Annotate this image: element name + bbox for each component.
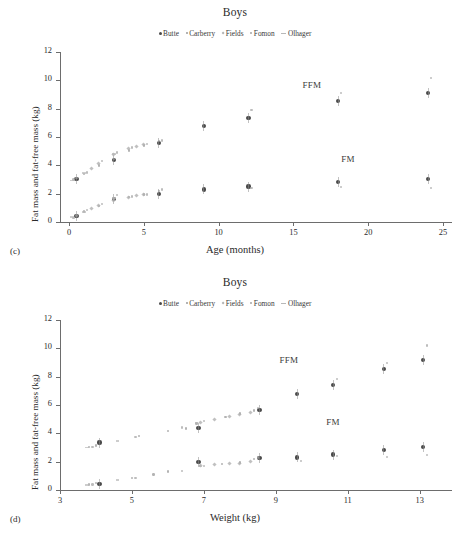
y-axis-line (60, 52, 61, 223)
y-tick (56, 377, 60, 378)
y-tick-label: 2 (36, 456, 52, 465)
data-point (199, 466, 202, 467)
data-point (116, 440, 119, 441)
data-point (116, 479, 119, 480)
legend-label-carberry: Carberry (189, 29, 215, 38)
data-point (89, 206, 93, 210)
panel-c-age: Boys Butte Carberry Fields Fomon Olhager… (0, 0, 470, 262)
data-point (116, 151, 118, 153)
data-point (134, 436, 136, 438)
panel-c-plot-area: 0246810120510152025FFMFM (60, 52, 452, 222)
data-point (257, 407, 259, 409)
data-point (250, 109, 252, 111)
data-point (75, 177, 77, 179)
data-point (181, 426, 183, 428)
error-bar (99, 438, 100, 448)
y-tick-label: 12 (36, 46, 52, 55)
data-point (430, 187, 432, 189)
data-point (340, 186, 342, 188)
diamond-marker-icon (222, 32, 225, 35)
data-point (253, 409, 255, 411)
y-tick-label: 8 (36, 103, 52, 112)
data-point (221, 463, 223, 465)
dot-marker-icon (250, 32, 252, 34)
x-tick (144, 222, 145, 226)
data-point (75, 214, 77, 216)
dot-marker-icon (250, 302, 252, 304)
panel-d-title: Boys (0, 276, 470, 288)
legend-entry-fomon: Fomon (250, 298, 274, 308)
data-point (340, 92, 342, 94)
panel-d-weight: Boys Butte Carberry Fields Fomon Olhager… (0, 270, 470, 532)
data-point (101, 160, 103, 162)
data-point (112, 153, 115, 154)
x-tick-label: 5 (122, 496, 142, 505)
data-point (91, 446, 93, 448)
data-point (82, 172, 85, 173)
data-point (86, 171, 88, 173)
legend-label-carberry: Carberry (189, 299, 215, 308)
legend-entry-fields: Fields (222, 298, 244, 308)
error-bar (248, 182, 249, 192)
data-point (131, 195, 133, 197)
x-tick-label: 11 (338, 496, 358, 505)
error-bar (99, 479, 100, 489)
x-tick-label: 10 (209, 228, 229, 237)
data-point (161, 188, 163, 190)
y-tick (56, 109, 60, 110)
y-tick (56, 137, 60, 138)
error-bar (113, 155, 114, 165)
dash-marker-icon (281, 303, 286, 304)
filled-circle-marker-icon (159, 32, 162, 35)
error-bar (428, 174, 429, 184)
data-point (300, 460, 302, 462)
data-point (195, 422, 198, 423)
legend-label-fields: Fields (226, 29, 244, 38)
y-tick-label: 8 (36, 371, 52, 380)
data-point (181, 470, 183, 472)
data-point (248, 460, 252, 464)
data-point (116, 194, 118, 196)
data-point (89, 167, 93, 171)
y-tick-label: 2 (36, 188, 52, 197)
error-bar (383, 445, 384, 455)
legend-entry-carberry: Carberry (186, 298, 215, 308)
x-tick (69, 222, 70, 226)
y-tick (56, 80, 60, 81)
data-point (131, 477, 133, 479)
x-tick (219, 222, 220, 226)
data-point (91, 483, 93, 485)
data-point (85, 447, 88, 448)
y-tick-label: 10 (36, 342, 52, 351)
error-bar (423, 442, 424, 452)
data-point (167, 430, 169, 432)
x-axis-line (60, 490, 452, 491)
x-tick (420, 490, 421, 494)
data-point (386, 456, 388, 458)
legend-entry-carberry: Carberry (186, 28, 215, 38)
data-point (146, 143, 148, 145)
y-tick-label: 6 (36, 131, 52, 140)
small-dot-marker-icon (186, 32, 188, 34)
panel-c-x-axis-label: Age (months) (0, 244, 470, 255)
error-bar (338, 96, 339, 106)
y-tick-label: 4 (36, 427, 52, 436)
x-tick-label: 3 (50, 496, 70, 505)
legend-label-butte: Butte (163, 29, 179, 38)
legend-label-fields: Fields (226, 299, 244, 308)
annotation-fm: FM (341, 154, 355, 164)
data-point (238, 461, 242, 465)
error-bar (198, 423, 199, 433)
y-tick (56, 165, 60, 166)
y-tick-label: 4 (36, 159, 52, 168)
y-tick-label: 0 (36, 216, 52, 225)
x-tick-label: 15 (283, 228, 303, 237)
data-point (185, 427, 187, 429)
data-point (238, 412, 242, 416)
data-point (152, 473, 154, 475)
y-tick (56, 348, 60, 349)
legend-entry-fomon: Fomon (250, 28, 274, 38)
error-bar (333, 450, 334, 460)
x-tick-label: 25 (433, 228, 453, 237)
data-point (134, 144, 138, 148)
